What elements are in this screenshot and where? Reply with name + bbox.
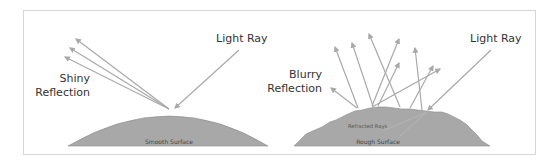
shiny-label: Shiny	[60, 72, 91, 85]
reflection-diagram: Light Ray Shiny Reflection Smooth Surfac…	[0, 0, 559, 165]
light-ray-label: Light Ray	[216, 32, 268, 45]
reflection-label: Reflection	[35, 86, 90, 99]
blurry-label: Blurry	[289, 68, 322, 81]
smooth-surface-label: Smooth Surface	[145, 138, 193, 145]
reflection-label: Reflection	[267, 82, 322, 95]
refracted-rays-label: Refracted Rays	[348, 123, 387, 130]
rough-surface-label: Rough Surface	[356, 138, 400, 146]
light-ray-label: Light Ray	[470, 32, 522, 45]
